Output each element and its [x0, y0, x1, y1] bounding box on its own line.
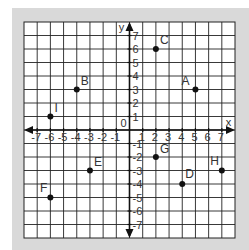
x-tick-label: 4 [178, 131, 184, 143]
point-label: I [54, 101, 57, 115]
x-tick-label: -4 [71, 131, 81, 143]
point-marker [74, 87, 80, 93]
point-label: C [160, 33, 169, 47]
point-marker [192, 87, 198, 93]
point-label: A [181, 74, 189, 88]
y-tick-label: -5 [133, 192, 143, 204]
coordinate-plane: yx0-7-6-5-4-3-2-112345677654321-1-2-3-4-… [0, 0, 249, 250]
y-axis-label: y [119, 21, 125, 33]
y-tick-label: 5 [133, 57, 139, 69]
point-label: D [185, 167, 194, 181]
point-marker [153, 46, 159, 52]
point-label: G [160, 142, 169, 156]
x-tick-label: -2 [97, 131, 107, 143]
x-tick-label: -6 [44, 131, 54, 143]
x-tick-label: 2 [152, 131, 158, 143]
x-tick-label: -7 [31, 131, 41, 143]
point-label: B [81, 74, 89, 88]
y-tick-label: 7 [133, 30, 139, 42]
point-marker [179, 181, 185, 187]
y-tick-label: -3 [133, 165, 143, 177]
point-marker [219, 168, 225, 174]
x-tick-label: -5 [58, 131, 68, 143]
y-tick-label: -1 [133, 138, 143, 150]
x-tick-label: 5 [191, 131, 197, 143]
point-marker [47, 114, 53, 120]
point-label: F [40, 181, 47, 195]
point-label: H [210, 154, 219, 168]
point-marker [47, 195, 53, 201]
y-tick-label: 3 [133, 84, 139, 96]
x-tick-label: 6 [205, 131, 211, 143]
x-tick-label: -3 [84, 131, 94, 143]
origin-label: 0 [120, 117, 126, 129]
point-label: E [94, 155, 102, 169]
y-tick-label: 2 [133, 97, 139, 109]
x-tick-label: -1 [110, 131, 120, 143]
y-tick-label: 4 [133, 70, 139, 82]
coordinate-grid-svg: yx0-7-6-5-4-3-2-112345677654321-1-2-3-4-… [0, 0, 249, 250]
y-tick-label: -7 [133, 219, 143, 231]
point-marker [153, 154, 159, 160]
y-tick-label: 6 [133, 43, 139, 55]
y-tick-label: -6 [133, 205, 143, 217]
x-tick-label: 7 [218, 131, 224, 143]
point-marker [87, 168, 93, 174]
y-tick-label: -4 [133, 178, 143, 190]
y-tick-label: -2 [133, 151, 143, 163]
x-axis-label: x [226, 116, 232, 128]
y-tick-label: 1 [133, 111, 139, 123]
